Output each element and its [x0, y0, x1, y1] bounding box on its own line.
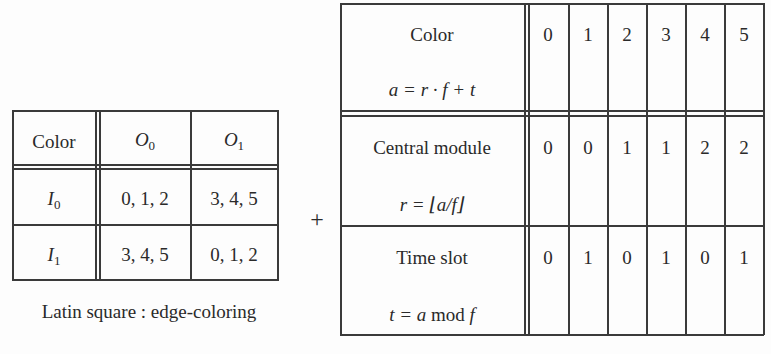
- cell-i0-o0: 0, 1, 2: [121, 189, 169, 208]
- table-border: [95, 110, 97, 280]
- table-border: [724, 3, 726, 335]
- value-color-5: 5: [739, 25, 749, 44]
- cell-i0-o1: 3, 4, 5: [210, 189, 258, 208]
- table-border: [607, 3, 609, 335]
- value-color-2: 2: [622, 25, 632, 44]
- header-o0: O0: [135, 130, 155, 152]
- cell-i1-o0: 3, 4, 5: [121, 245, 169, 264]
- value-color-0: 0: [543, 25, 553, 44]
- table-border: [99, 110, 101, 280]
- table-border: [12, 110, 14, 280]
- value-central-5: 2: [739, 138, 749, 157]
- table-border: [190, 110, 192, 280]
- value-central-0: 0: [543, 138, 553, 157]
- table-border: [12, 110, 279, 112]
- table-border: [340, 334, 764, 336]
- table-border: [12, 164, 279, 166]
- table-border: [524, 3, 526, 335]
- formula-time-slot: t = a mod f: [389, 305, 475, 324]
- row-title-time-slot: Time slot: [396, 248, 468, 267]
- formula-color: a = r · f + t: [389, 80, 475, 99]
- table-border: [340, 3, 342, 335]
- value-central-1: 0: [583, 138, 593, 157]
- table-border: [568, 3, 570, 335]
- plus-sign: +: [310, 207, 324, 231]
- value-time-5: 1: [739, 248, 749, 267]
- row-label-i1: I1: [48, 245, 61, 267]
- table-border: [12, 168, 279, 170]
- header-o1: O1: [224, 130, 244, 152]
- table-border: [340, 3, 764, 5]
- formula-central-module: r = ⌊a/f⌋: [400, 195, 465, 214]
- table-border: [12, 224, 279, 226]
- value-time-4: 0: [700, 248, 710, 267]
- table-border: [12, 279, 279, 281]
- table-border: [340, 225, 764, 227]
- row-title-color: Color: [410, 25, 453, 44]
- table-border: [277, 110, 279, 280]
- value-time-2: 0: [622, 248, 632, 267]
- value-central-4: 2: [700, 138, 710, 157]
- table-border: [528, 3, 530, 335]
- value-color-3: 3: [661, 25, 671, 44]
- table-border: [685, 3, 687, 335]
- value-central-2: 1: [622, 138, 632, 157]
- table-border: [763, 3, 765, 335]
- value-color-4: 4: [700, 25, 710, 44]
- table-border: [646, 3, 648, 335]
- value-time-3: 1: [661, 248, 671, 267]
- row-label-i0: I0: [48, 189, 61, 211]
- row-title-central-module: Central module: [373, 138, 491, 157]
- cell-i1-o1: 0, 1, 2: [210, 245, 258, 264]
- table-border: [340, 110, 764, 112]
- header-color: Color: [32, 132, 75, 151]
- value-central-3: 1: [661, 138, 671, 157]
- table-border: [340, 115, 764, 117]
- value-color-1: 1: [583, 25, 593, 44]
- value-time-1: 1: [583, 248, 593, 267]
- value-time-0: 0: [543, 248, 553, 267]
- latin-square-caption: Latin square : edge-coloring: [42, 302, 257, 321]
